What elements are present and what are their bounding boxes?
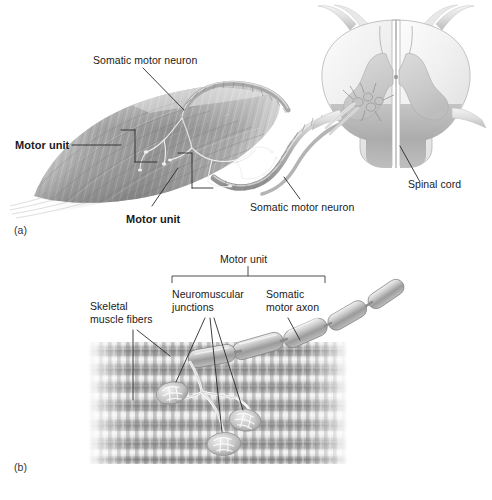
- figure-root: Somatic motor neuron Somatic motor neuro…: [0, 0, 492, 500]
- label-skeletal-muscle-fibers-line1: Skeletal: [90, 300, 128, 313]
- label-motor-unit-bracket: Motor unit: [220, 253, 267, 266]
- label-neuromuscular-junctions-line1: Neuromuscular: [172, 288, 244, 301]
- label-somatic-motor-axon-line2: motor axon: [266, 301, 319, 314]
- label-skeletal-muscle-fibers-line2: muscle fibers: [90, 313, 153, 326]
- panel-b-tag: (b): [14, 461, 27, 474]
- label-somatic-motor-axon-line1: Somatic: [266, 288, 304, 301]
- panel-b-artwork: [0, 0, 492, 500]
- panel-b-bracket-motor-unit: [172, 266, 325, 283]
- panel-b: Motor unit Neuromuscular junctions Somat…: [0, 0, 492, 500]
- label-neuromuscular-junctions-line2: junctions: [172, 301, 214, 314]
